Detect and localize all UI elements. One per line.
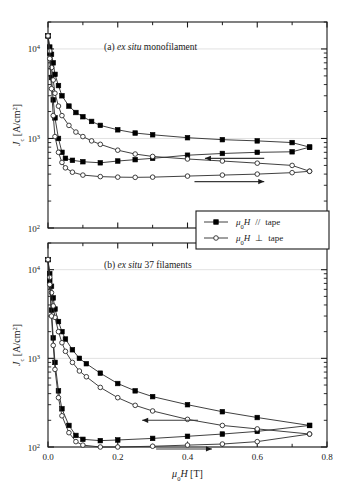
data-point-filled-square: [56, 389, 61, 394]
ytick-label: 103: [28, 352, 40, 364]
data-point-open-circle: [98, 142, 103, 147]
series-line: [48, 36, 310, 147]
data-point-open-circle: [63, 166, 68, 171]
data-point-filled-square: [185, 434, 190, 439]
data-point-open-circle: [46, 257, 51, 262]
data-point-filled-square: [255, 150, 260, 155]
panel-b-series-0: [46, 257, 312, 427]
data-point-open-circle: [60, 113, 65, 118]
data-point-filled-square: [150, 436, 155, 441]
ytick-label: 102: [28, 441, 40, 453]
data-point-open-circle: [133, 175, 138, 180]
data-point-open-circle: [51, 343, 56, 348]
data-point-open-circle: [98, 385, 103, 390]
data-point-filled-square: [115, 381, 120, 386]
data-point-open-circle: [74, 439, 79, 444]
data-point-filled-square: [150, 394, 155, 399]
data-point-filled-square: [74, 433, 79, 438]
arrow-head-right: [258, 179, 264, 184]
data-point-filled-square: [81, 114, 86, 119]
data-point-filled-square: [56, 83, 61, 88]
data-point-open-circle: [77, 369, 82, 374]
xtick-label: 0.2: [112, 452, 123, 462]
data-point-open-circle: [70, 360, 75, 365]
data-point-open-circle: [51, 78, 56, 83]
data-point-open-circle: [51, 113, 56, 118]
data-point-open-circle: [84, 374, 89, 379]
data-point-filled-square: [81, 159, 86, 164]
data-point-open-circle: [70, 170, 75, 175]
data-point-filled-square: [290, 149, 295, 154]
data-point-filled-square: [115, 159, 120, 164]
data-point-open-circle: [307, 169, 312, 174]
data-point-open-circle: [56, 329, 61, 334]
data-point-open-circle: [56, 150, 61, 155]
data-point-open-circle: [47, 49, 52, 54]
data-point-filled-square: [89, 119, 94, 124]
y-axis-title-panel-b: Jc [A/cm2]: [11, 324, 25, 366]
data-point-open-circle: [255, 439, 260, 444]
data-point-open-circle: [220, 173, 225, 178]
data-point-open-circle: [60, 413, 65, 418]
data-point-open-circle: [133, 152, 138, 157]
xtick-label: 0.8: [321, 452, 333, 462]
panel-a-axes: 104103102: [28, 22, 327, 234]
data-point-filled-square: [150, 132, 155, 137]
data-point-open-circle: [49, 314, 54, 319]
data-point-filled-square: [115, 438, 120, 443]
figure-container: 1041031021041031020.00.20.40.60.8(a) ex …: [0, 0, 342, 487]
data-point-filled-square: [67, 104, 72, 109]
series-line: [48, 260, 310, 447]
series-line: [48, 36, 310, 163]
data-point-open-circle: [67, 123, 72, 128]
data-point-open-circle: [185, 417, 190, 422]
plot-frame: [48, 22, 327, 228]
data-point-open-circle: [150, 444, 155, 449]
data-point-open-circle: [150, 154, 155, 159]
data-point-open-circle: [63, 349, 68, 354]
plot-frame: [48, 243, 327, 447]
data-point-open-circle: [81, 134, 86, 139]
panel-a-series-2: [46, 34, 312, 174]
data-point-filled-square: [67, 423, 72, 428]
data-point-filled-square: [255, 139, 260, 144]
data-point-filled-square: [290, 140, 295, 145]
legend-marker-filled-square: [214, 220, 219, 225]
ytick-label: 104: [28, 43, 41, 55]
data-point-open-circle: [220, 159, 225, 164]
data-point-filled-square: [74, 110, 79, 115]
y-axis-title-panel-a: Jc [A/cm2]: [11, 104, 25, 146]
data-point-filled-square: [60, 93, 65, 98]
data-point-open-circle: [115, 148, 120, 153]
data-point-open-circle: [56, 395, 61, 400]
data-point-open-circle: [53, 134, 58, 139]
xtick-label: 0.6: [252, 452, 264, 462]
data-point-open-circle: [74, 130, 79, 135]
data-point-filled-square: [63, 156, 68, 161]
data-point-open-circle: [255, 161, 260, 166]
panel-a-series-3: [46, 34, 312, 180]
data-point-open-circle: [290, 170, 295, 175]
data-point-open-circle: [60, 340, 65, 345]
data-point-open-circle: [150, 409, 155, 414]
data-point-filled-square: [220, 409, 225, 414]
data-point-open-circle: [133, 403, 138, 408]
panel-b-series-1: [46, 257, 312, 443]
data-point-open-circle: [115, 175, 120, 180]
xtick-label: 0.0: [42, 452, 54, 462]
data-point-filled-square: [70, 347, 75, 352]
y-axis-title-text: Jc [A/cm2]: [11, 104, 25, 146]
data-point-open-circle: [53, 367, 58, 372]
series-line: [48, 260, 310, 434]
ytick-label: 102: [28, 222, 40, 234]
jc-vs-field-figure: 1041031021041031020.00.20.40.60.8(a) ex …: [0, 0, 342, 487]
series-line: [48, 260, 310, 441]
data-point-open-circle: [47, 282, 52, 287]
data-point-filled-square: [70, 158, 75, 163]
data-point-open-circle: [115, 395, 120, 400]
panel-b-label: (b) ex situ 37 filaments: [104, 260, 192, 271]
panel-a-arrow-1: [194, 179, 264, 184]
data-point-open-circle: [51, 304, 56, 309]
data-point-open-circle: [98, 445, 103, 450]
x-axis-title: μ0H [T]: [171, 468, 203, 482]
